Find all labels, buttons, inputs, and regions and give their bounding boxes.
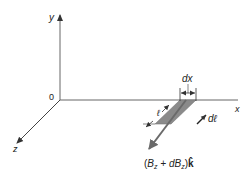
length-label: ℓ [156, 108, 160, 118]
field-arrow [149, 100, 186, 149]
origin-label: 0 [49, 92, 54, 102]
shaded-element [155, 100, 196, 124]
diagram-canvas: y x z 0 dx ℓ dℓ (Bz + dBz)k̂ [0, 0, 252, 178]
dl-label: dℓ [208, 113, 218, 124]
z-axis-label: z [12, 144, 18, 154]
dx-label: dx [182, 73, 194, 84]
x-axis-label: x [234, 104, 240, 114]
field-label: (Bz + dBz)k̂ [144, 157, 194, 170]
length-arrow-up [162, 105, 169, 112]
y-axis-label: y [48, 12, 55, 23]
z-axis [17, 100, 60, 143]
dl-arrow [197, 115, 206, 124]
